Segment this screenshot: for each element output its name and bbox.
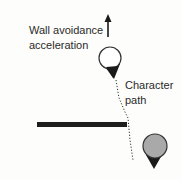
character-path-label-line2: path: [125, 93, 146, 108]
wall: [37, 122, 127, 127]
character-current-icon: [99, 47, 121, 79]
character-start-icon: [143, 134, 167, 169]
wall-avoidance-label-line2: acceleration: [29, 38, 88, 53]
acceleration-arrow-icon: [105, 14, 112, 37]
wall-avoidance-diagram: Wall avoidance acceleration Character pa…: [0, 0, 182, 180]
wall-avoidance-label-line1: Wall avoidance: [29, 23, 103, 38]
character-path-label-line1: Character: [125, 78, 173, 93]
